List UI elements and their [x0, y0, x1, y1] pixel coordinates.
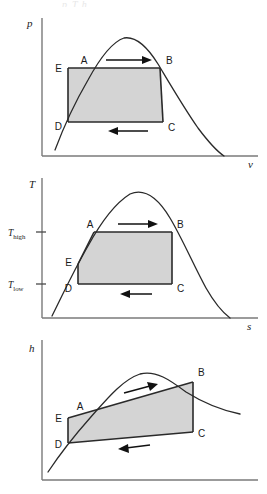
hs-state-label-B: B — [198, 367, 205, 378]
hs-state-label-E: E — [55, 413, 62, 424]
hs-arrow-forward-head — [147, 382, 158, 391]
thermodynamic-cycle-figure: p, T, h — [0, 0, 267, 494]
hs-y-axis-label: h — [29, 342, 35, 354]
ts-y-axis-label: T — [29, 178, 36, 190]
ts-arrow-forward — [118, 220, 158, 228]
hs-diagram-panel: h A B C D E — [0, 330, 267, 494]
pv-cycle-shaded-area — [68, 68, 163, 122]
ts-arrow-reverse — [120, 290, 152, 298]
pv-arrow-forward-head — [142, 56, 152, 64]
pv-x-axis-label: v — [248, 158, 253, 170]
hs-state-label-D: D — [55, 439, 62, 450]
ts-state-label-D: D — [65, 283, 72, 294]
hs-state-label-A: A — [77, 401, 84, 412]
ts-state-label-A: A — [87, 219, 94, 230]
pv-state-label-E: E — [55, 63, 62, 74]
pv-y-axis-label: p — [26, 17, 33, 29]
hs-arrow-forward — [124, 382, 158, 393]
pv-state-label-B: B — [166, 55, 173, 66]
hs-state-label-C: C — [198, 428, 205, 439]
ts-state-label-E: E — [65, 257, 72, 268]
hs-arrow-reverse-shaft — [126, 445, 150, 448]
pv-state-label-D: D — [55, 121, 62, 132]
ts-arrow-forward-head — [148, 220, 158, 228]
pv-arrow-reverse — [108, 127, 148, 135]
ts-state-label-B: B — [177, 219, 184, 230]
hs-arrow-reverse-head — [118, 444, 129, 453]
pv-arrow-forward — [106, 56, 152, 64]
ts-ytick-label-T-high: Thigh — [8, 228, 26, 240]
ts-diagram-panel: T s Thigh Tlow A B C D E — [0, 170, 267, 330]
ts-diagram-svg: T s Thigh Tlow A B C D E — [0, 170, 267, 330]
hs-arrow-forward-shaft — [124, 386, 150, 393]
ts-arrow-reverse-head — [120, 290, 130, 298]
pv-diagram-panel: p v A B C D E — [0, 0, 267, 170]
pv-state-label-A: A — [81, 55, 88, 66]
pv-diagram-svg: p v A B C D E — [0, 0, 267, 170]
ts-ytick-label-T-low: Tlow — [8, 280, 24, 292]
pv-state-label-C: C — [168, 122, 175, 133]
ts-x-axis-label: s — [247, 320, 251, 330]
hs-diagram-svg: h A B C D E — [0, 330, 267, 494]
hs-arrow-reverse — [118, 444, 150, 453]
pv-arrow-reverse-head — [108, 127, 118, 135]
ts-state-label-C: C — [177, 283, 184, 294]
